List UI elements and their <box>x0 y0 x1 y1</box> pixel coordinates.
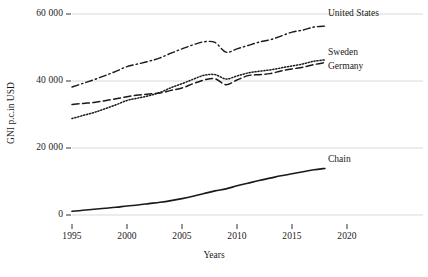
x-tick-label: 2005 <box>157 232 207 242</box>
y-tick-label: 60 000 <box>0 9 63 19</box>
gridlines <box>72 14 423 215</box>
series-label-germany: Germany <box>328 62 363 72</box>
series-label-united-states: United States <box>328 9 379 19</box>
series-label-chain: Chain <box>328 155 351 165</box>
axis-tick-marks <box>66 14 347 229</box>
x-tick-label: 1995 <box>47 232 97 242</box>
x-axis-title: Years <box>0 250 428 260</box>
x-tick-label: 2020 <box>322 232 372 242</box>
series-lines <box>72 26 325 211</box>
x-tick-label: 2015 <box>267 232 317 242</box>
series-line-germany <box>72 63 325 105</box>
y-axis-title: GNI p.c.in USD <box>6 48 16 178</box>
x-tick-label: 2010 <box>212 232 262 242</box>
gni-per-capita-line-chart: 020 00040 00060 000 19952000200520102015… <box>0 0 428 277</box>
series-line-sweden <box>72 60 325 119</box>
x-tick-label: 2000 <box>102 232 152 242</box>
series-label-sweden: Sweden <box>328 48 358 58</box>
series-line-chain <box>72 168 325 211</box>
y-tick-label: 0 <box>0 210 63 220</box>
